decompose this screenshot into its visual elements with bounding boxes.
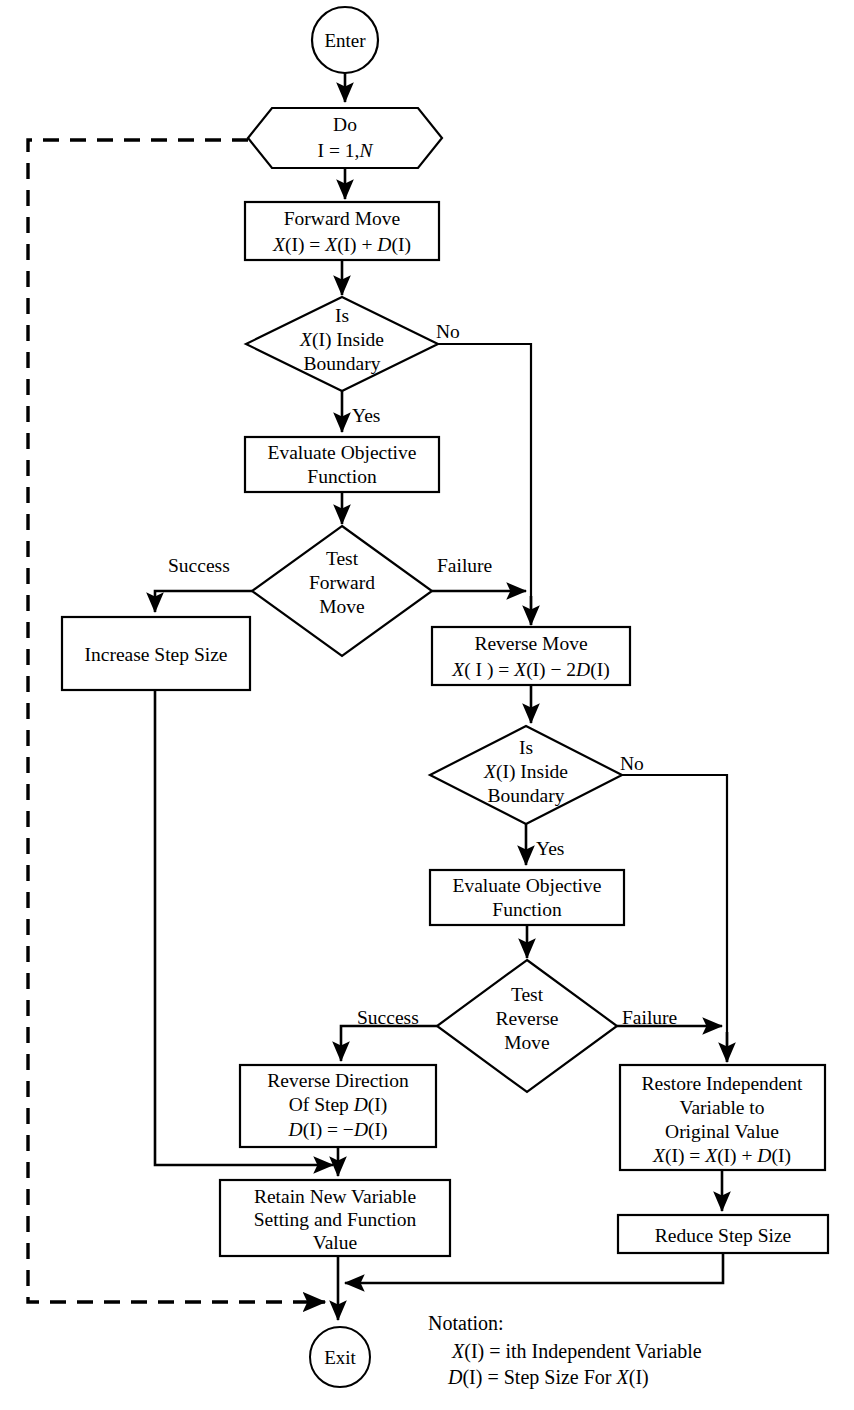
- forward-move-node[interactable]: Forward Move X(I) = X(I) + D(I): [245, 202, 439, 260]
- exit-terminator[interactable]: Exit: [310, 1327, 370, 1387]
- test-forward-line2: Forward: [309, 572, 375, 593]
- label-yes-2: Yes: [536, 838, 564, 859]
- forward-move-line1: Forward Move: [284, 208, 400, 229]
- restore-line1: Restore Independent: [642, 1073, 803, 1094]
- test-forward-line3: Move: [319, 596, 365, 617]
- evaluate-objective-2-node[interactable]: Evaluate Objective Function: [430, 870, 624, 925]
- enter-terminator[interactable]: Enter: [312, 7, 378, 73]
- label-no-1: No: [436, 321, 460, 342]
- restore-line2: Variable to: [679, 1097, 764, 1118]
- notation-line-1: X(I) = ith Independent Variable: [451, 1340, 702, 1363]
- boundary-test-1-line1: Is: [335, 305, 349, 326]
- reverse-direction-node[interactable]: Reverse Direction Of Step D(I) D(I) = −D…: [240, 1065, 436, 1147]
- notation-line-2: D(I) = Step Size For X(I): [447, 1366, 649, 1389]
- evaluate-1-line1: Evaluate Objective: [268, 442, 417, 463]
- evaluate-1-line2: Function: [307, 466, 377, 487]
- do-loop-line1: Do: [333, 114, 357, 135]
- reverse-direction-line1: Reverse Direction: [267, 1070, 409, 1091]
- do-loop-line2: I = 1,N: [318, 140, 374, 161]
- boundary-test-2-line2: X(I) Inside: [483, 761, 568, 783]
- reverse-move-node[interactable]: Reverse Move X( I ) = X(I) − 2D(I): [432, 627, 630, 685]
- restore-line4: X(I) = X(I) + D(I): [652, 1145, 791, 1167]
- evaluate-2-line2: Function: [492, 899, 562, 920]
- boundary-test-2-node[interactable]: Is X(I) Inside Boundary: [430, 726, 622, 824]
- notation-legend: Notation: X(I) = ith Independent Variabl…: [428, 1312, 702, 1389]
- edge-test-forward-success: [155, 591, 252, 612]
- flowchart-canvas: Enter Do I = 1,N Forward Move X(I) = X(I…: [0, 0, 854, 1410]
- label-failure-1: Failure: [437, 555, 492, 576]
- retain-line2: Setting and Function: [254, 1209, 417, 1230]
- label-no-2: No: [620, 753, 644, 774]
- edge-test-reverse-success: [341, 1026, 437, 1061]
- reverse-direction-line3: D(I) = −D(I): [288, 1119, 388, 1141]
- retain-setting-node[interactable]: Retain New Variable Setting and Function…: [220, 1180, 450, 1256]
- reverse-move-line2: X( I ) = X(I) − 2D(I): [451, 659, 609, 681]
- label-failure-2: Failure: [622, 1007, 677, 1028]
- edge-reduce-step-to-exit: [345, 1253, 723, 1283]
- restore-line3: Original Value: [665, 1121, 779, 1142]
- boundary-test-2-line3: Boundary: [488, 785, 565, 806]
- reverse-direction-line2: Of Step D(I): [289, 1094, 388, 1116]
- forward-move-line2: X(I) = X(I) + D(I): [272, 234, 411, 256]
- retain-line1: Retain New Variable: [254, 1186, 416, 1207]
- boundary-test-1-line2: X(I) Inside: [299, 329, 384, 351]
- test-reverse-line1: Test: [511, 984, 544, 1005]
- reverse-move-line1: Reverse Move: [474, 633, 587, 654]
- exit-label: Exit: [324, 1347, 356, 1368]
- increase-step-label: Increase Step Size: [85, 644, 228, 665]
- notation-heading: Notation:: [428, 1312, 504, 1334]
- retain-line3: Value: [313, 1232, 357, 1253]
- boundary-test-2-line1: Is: [519, 737, 533, 758]
- boundary-test-1-node[interactable]: Is X(I) Inside Boundary: [246, 297, 438, 391]
- test-reverse-line2: Reverse: [496, 1008, 559, 1029]
- test-forward-line1: Test: [326, 548, 359, 569]
- increase-step-size-node[interactable]: Increase Step Size: [62, 617, 250, 690]
- evaluate-2-line1: Evaluate Objective: [453, 875, 602, 896]
- enter-label: Enter: [324, 30, 366, 51]
- label-yes-1: Yes: [352, 405, 380, 426]
- evaluate-objective-1-node[interactable]: Evaluate Objective Function: [245, 437, 439, 492]
- edge-boundary1-no: [438, 344, 531, 625]
- test-reverse-move-node[interactable]: Test Reverse Move: [437, 960, 617, 1092]
- reduce-step-size-node[interactable]: Reduce Step Size: [618, 1215, 828, 1253]
- flowchart-page: Enter Do I = 1,N Forward Move X(I) = X(I…: [0, 0, 854, 1410]
- boundary-test-1-line3: Boundary: [304, 353, 381, 374]
- label-success-1: Success: [168, 555, 230, 576]
- label-success-2: Success: [357, 1007, 419, 1028]
- test-reverse-line3: Move: [504, 1032, 550, 1053]
- do-loop-node[interactable]: Do I = 1,N: [248, 108, 442, 168]
- test-forward-move-node[interactable]: Test Forward Move: [252, 526, 432, 656]
- reduce-step-label: Reduce Step Size: [655, 1225, 791, 1246]
- restore-variable-node[interactable]: Restore Independent Variable to Original…: [620, 1065, 825, 1170]
